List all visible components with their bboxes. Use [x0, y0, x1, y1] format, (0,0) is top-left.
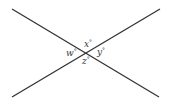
angle-y-label: y° — [96, 46, 105, 57]
angle-z-label: z° — [81, 55, 90, 66]
angle-x-label: x° — [84, 38, 92, 49]
intersecting-lines-diagram: x° w° y° z° — [0, 0, 169, 110]
angle-w-label: w° — [66, 47, 77, 58]
